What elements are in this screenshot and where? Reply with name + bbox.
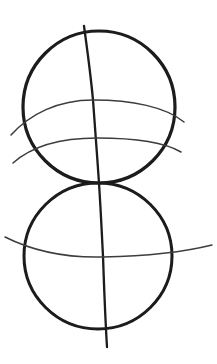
sketch-canvas bbox=[0, 0, 217, 364]
sketch-svg bbox=[0, 0, 217, 364]
